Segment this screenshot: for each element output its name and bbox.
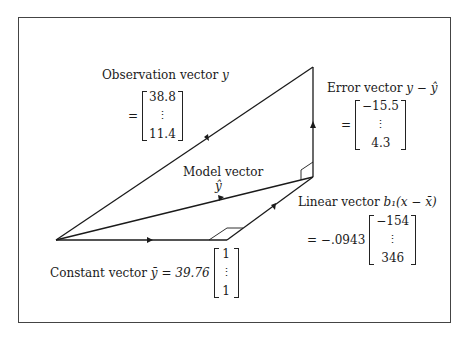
matrix-cell: 346 (381, 252, 404, 265)
label-symbol: y (222, 68, 229, 82)
right-angle-marker-bottom (209, 228, 243, 240)
label-symbol: ȳ = 39.76 (151, 266, 210, 280)
error-matrix: = −15.5 ⋮ 4.3 (341, 100, 406, 150)
label-text: Error vector (327, 81, 402, 95)
arrow-icon (147, 237, 153, 243)
matrix-bracket: −15.5 ⋮ 4.3 (355, 100, 406, 150)
vdots: ⋮ (157, 113, 168, 119)
label-symbol: y − ŷ (406, 81, 437, 95)
matrix-cell: −154 (376, 215, 409, 228)
vdots: ⋮ (387, 237, 398, 243)
label-text: Linear vector (298, 195, 380, 209)
observation-matrix: = 38.8 ⋮ 11.4 (128, 91, 183, 141)
linear-matrix: = −.0943 −154 ⋮ 346 (307, 215, 416, 265)
label-text: Observation vector (102, 68, 218, 82)
vdots: ⋮ (375, 122, 386, 128)
label-symbol: ŷ (215, 179, 222, 193)
linear-vector-label: Linear vector b₁(x − x̄) (298, 195, 437, 209)
model-vector-symbol: ŷ (215, 179, 222, 193)
vdots: ⋮ (221, 270, 232, 276)
error-vector-label: Error vector y − ŷ (327, 81, 437, 95)
observation-vector-label: Observation vector y (102, 68, 229, 82)
matrix-bracket: −154 ⋮ 346 (369, 215, 416, 265)
matrix-bracket: 1 ⋮ 1 (214, 248, 239, 298)
label-text: Constant vector (50, 266, 147, 280)
constant-vector-label: Constant vector ȳ = 39.76 (50, 266, 210, 280)
label-text: Model vector (183, 165, 263, 179)
observation-vector-line (56, 67, 313, 240)
matrix-cell: 1 (221, 248, 231, 261)
constant-vector: Constant vector ȳ = 39.76 1 ⋮ 1 (50, 248, 239, 298)
equals-sign: = (128, 109, 138, 123)
label-symbol: b₁(x − x̄) (384, 195, 437, 209)
matrix-cell: 11.4 (149, 128, 176, 141)
model-vector-label: Model vector (183, 165, 263, 179)
equals-coefficient: = −.0943 (307, 233, 365, 247)
matrix-cell: −15.5 (362, 100, 399, 113)
matrix-bracket: 38.8 ⋮ 11.4 (142, 91, 183, 141)
matrix-cell: 4.3 (370, 137, 390, 150)
matrix-cell: 1 (221, 285, 231, 298)
equals-sign: = (341, 118, 351, 132)
arrow-icon (310, 121, 316, 128)
matrix-cell: 38.8 (149, 91, 176, 104)
